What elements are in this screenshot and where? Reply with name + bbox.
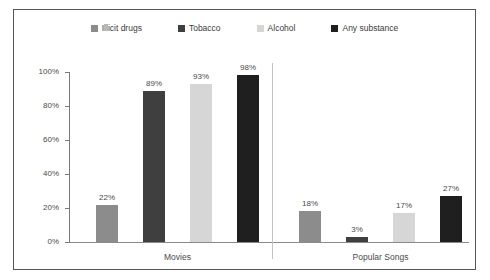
- bar[interactable]: [143, 91, 165, 242]
- legend-item-label: Illicit drugs: [102, 24, 142, 33]
- x-axis-baseline: [69, 242, 469, 243]
- plot-area: 100%80%60%40%20%0% 22%89%93%98%18%3%17%2…: [69, 63, 469, 242]
- bar-value-label: 3%: [351, 226, 363, 234]
- y-axis-tick: 60%: [65, 140, 70, 141]
- group-divider: [272, 63, 273, 259]
- legend-item-any-substance[interactable]: Any substance: [331, 24, 398, 33]
- y-axis-line: [69, 72, 70, 242]
- legend-swatch-icon: [91, 25, 98, 32]
- category-label: Movies: [164, 253, 191, 262]
- y-axis-tick-label: 20%: [43, 204, 59, 212]
- bar[interactable]: [393, 213, 415, 242]
- y-axis-tick: 20%: [65, 208, 70, 209]
- bar-value-label: 93%: [193, 73, 209, 81]
- y-axis-tick-label: 80%: [43, 102, 59, 110]
- bar-value-label: 22%: [99, 194, 115, 202]
- bar-value-label: 27%: [443, 185, 459, 193]
- bar[interactable]: [190, 84, 212, 242]
- y-axis-tick: 100%: [65, 72, 70, 73]
- legend-item-tobacco[interactable]: Tobacco: [178, 24, 221, 33]
- y-axis-tick-label: 100%: [39, 68, 59, 76]
- bar-value-label: 98%: [240, 64, 256, 72]
- legend-item-label: Tobacco: [189, 24, 221, 33]
- legend-swatch-icon: [257, 25, 264, 32]
- bar[interactable]: [440, 196, 462, 242]
- y-axis-tick: 40%: [65, 174, 70, 175]
- legend-swatch-icon: [178, 25, 185, 32]
- legend-item-label: Any substance: [342, 24, 398, 33]
- y-axis-tick-label: 60%: [43, 136, 59, 144]
- bar[interactable]: [96, 205, 118, 242]
- bar[interactable]: [299, 211, 321, 242]
- chart-frame: Illicit drugs Tobacco Alcohol Any substa…: [13, 9, 476, 270]
- legend-item-label: Alcohol: [268, 24, 296, 33]
- y-axis-tick: 0%: [65, 242, 70, 243]
- y-axis-tick: 80%: [65, 106, 70, 107]
- bar[interactable]: [237, 75, 259, 242]
- category-label: Popular Songs: [353, 253, 409, 262]
- bar-value-label: 18%: [302, 200, 318, 208]
- y-axis-tick-label: 40%: [43, 170, 59, 178]
- legend-swatch-icon: [331, 25, 338, 32]
- bar-value-label: 17%: [396, 202, 412, 210]
- legend-item-alcohol[interactable]: Alcohol: [257, 24, 296, 33]
- y-axis-tick-label: 0%: [47, 238, 59, 246]
- bar[interactable]: [346, 237, 368, 242]
- bar-value-label: 89%: [146, 80, 162, 88]
- legend-item-illicit-drugs[interactable]: Illicit drugs: [91, 24, 142, 33]
- chart-legend: Illicit drugs Tobacco Alcohol Any substa…: [14, 24, 475, 33]
